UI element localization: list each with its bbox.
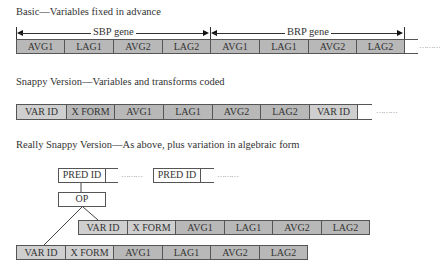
lower-xform-cell: X FORM [65, 245, 114, 260]
upper-avg1-cell: AVG1 [175, 220, 225, 235]
upper-lag2-cell: LAG2 [321, 220, 370, 235]
lower-avg1-cell: AVG1 [113, 245, 163, 260]
upper-operand-chromosome: VAR ID X FORM AVG1 LAG1 AVG2 LAG2 [78, 220, 370, 235]
upper-varid-cell: VAR ID [78, 220, 128, 235]
lower-operand-chromosome: VAR ID X FORM AVG1 LAG1 AVG2 LAG2 [16, 245, 308, 260]
lower-varid-cell: VAR ID [16, 245, 66, 260]
lower-lag2-cell: LAG2 [259, 245, 308, 260]
upper-avg2-cell: AVG2 [272, 220, 322, 235]
lower-lag1-cell: LAG1 [162, 245, 211, 260]
upper-lag1-cell: LAG1 [224, 220, 273, 235]
lower-avg2-cell: AVG2 [210, 245, 260, 260]
upper-xform-cell: X FORM [127, 220, 176, 235]
